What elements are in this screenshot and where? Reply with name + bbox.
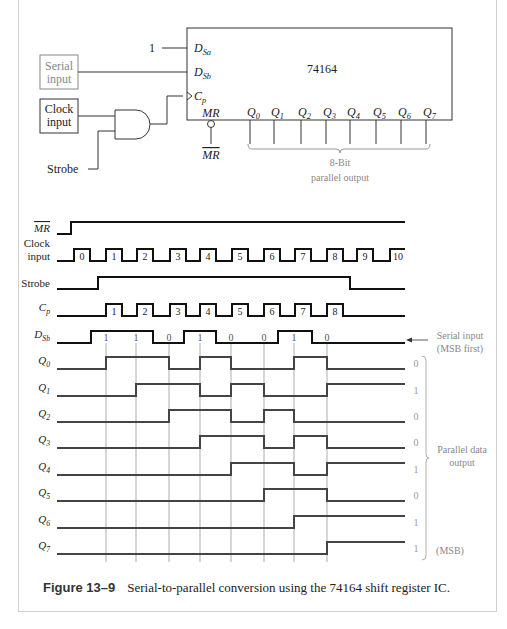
row-label-strobe: Strobe: [21, 277, 50, 289]
parallel-brace: [422, 356, 429, 560]
pin-q6: Q6: [398, 105, 412, 121]
final-value: 1: [414, 385, 419, 396]
clock-input-label: Clock: [45, 102, 74, 116]
row-label: Cp: [39, 301, 50, 316]
serial-input-label: input: [47, 72, 72, 86]
clock-pulse-number: 4: [206, 251, 211, 262]
clock-pulse-number: 7: [301, 251, 306, 262]
row-label-clock: Clock: [24, 237, 51, 249]
timing-diagram: [57, 222, 429, 562]
pin-q0: Q0: [247, 105, 261, 121]
dsb-bit: 1: [198, 332, 203, 343]
and-gate: [115, 110, 150, 139]
dsb-bit: 1: [292, 332, 297, 343]
mr-bubble: [208, 121, 215, 128]
dsa-constant: 1: [149, 41, 155, 55]
circuit-schematic: [40, 28, 452, 169]
waveform-mr: [57, 222, 405, 234]
final-value: 1: [414, 464, 419, 475]
pin-q7: Q7: [423, 105, 437, 121]
waveform-clock: [57, 249, 405, 261]
clock-pulse-number: 2: [143, 251, 148, 262]
cp-pulse-number: 2: [143, 306, 148, 317]
figure-diagram: 1DSaDSbCpMRMR74164SerialinputClockinputS…: [0, 0, 507, 629]
clock-pulse-number: 6: [270, 251, 275, 262]
final-value: 0: [414, 437, 419, 448]
dsb-bit: 0: [325, 332, 330, 343]
row-label: Q6: [38, 513, 50, 528]
pin-mr: MR: [201, 106, 220, 120]
msb-note: (MSB): [436, 545, 464, 557]
clock-pulse-number: 10: [393, 251, 403, 262]
pin-cp: Cp: [194, 89, 206, 105]
clock-pulse-number: 1: [112, 251, 117, 262]
row-label: Q3: [38, 433, 50, 448]
serial-input-note: Serial input: [437, 330, 484, 341]
cp-pulse-number: 5: [238, 306, 243, 317]
dsb-bit: 0: [229, 332, 234, 343]
row-label-clock: input: [27, 250, 50, 262]
caption-text: Serial-to-parallel conversion using the …: [127, 580, 450, 595]
final-value: 1: [414, 543, 419, 554]
cp-pulse-number: 6: [270, 306, 275, 317]
serial-input-label: Serial: [45, 59, 74, 73]
dsb-bit: 1: [134, 332, 139, 343]
clock-pulse-number: 9: [363, 251, 368, 262]
waveform-q4: [57, 463, 405, 475]
waveform-q1: [57, 384, 405, 396]
parallel-output-label: 8-Bit: [330, 157, 351, 168]
row-label: MR: [33, 222, 50, 234]
clock-pulse-number: 0: [80, 251, 85, 262]
final-value: 0: [414, 411, 419, 422]
cp-pulse-number: 3: [176, 306, 181, 317]
clock-pulse-number: 5: [238, 251, 243, 262]
row-label: Q5: [38, 486, 50, 501]
final-value: 0: [414, 358, 419, 369]
pin-q4: Q4: [347, 105, 360, 121]
cp-pulse-number: 8: [333, 306, 338, 317]
clock-pulse-number: 3: [176, 251, 181, 262]
figure-number: Figure 13–9: [43, 580, 115, 595]
waveform-q0: [57, 357, 405, 369]
waveform-strobe: [57, 277, 405, 289]
chip-label: 74164: [307, 62, 337, 76]
strobe-label: Strobe: [47, 162, 78, 176]
pin-q3: Q3: [323, 105, 336, 121]
arrow-icon: [406, 338, 412, 343]
serial-input-note: (MSB first): [437, 343, 483, 355]
cp-pulse-number: 1: [112, 306, 117, 317]
row-label: Q0: [38, 354, 50, 369]
dsb-bit: 1: [104, 332, 109, 343]
parallel-output-label: parallel output: [311, 172, 369, 183]
mr-bar-label: MR: [201, 148, 220, 162]
row-label: DSb: [33, 328, 50, 343]
figure-caption: Figure 13–9Serial-to-parallel conversion…: [43, 580, 450, 596]
cp-pulse-number: 7: [301, 306, 306, 317]
parallel-data-note: output: [449, 457, 475, 468]
pin-q5: Q5: [373, 105, 386, 121]
dsb-bit: 0: [167, 332, 172, 343]
pin-dsa: DSa: [193, 41, 211, 57]
row-label: Q2: [38, 407, 50, 422]
row-label: Q4: [38, 460, 50, 475]
clock-pulse-number: 8: [333, 251, 338, 262]
row-label: Q1: [38, 381, 50, 396]
clock-input-label: input: [47, 115, 72, 129]
dsb-bit: 0: [262, 332, 267, 343]
final-value: 0: [414, 490, 419, 501]
pin-q2: Q2: [298, 105, 311, 121]
final-value: 1: [414, 517, 419, 528]
waveform-q2: [57, 410, 405, 422]
pin-q1: Q1: [271, 105, 284, 121]
cp-pulse-number: 4: [206, 306, 211, 317]
waveform-cp: [57, 304, 405, 316]
row-label: Q7: [38, 539, 51, 554]
parallel-data-note: Parallel data: [437, 444, 487, 455]
pin-dsb: DSb: [193, 65, 211, 81]
output-brace: [248, 144, 430, 153]
